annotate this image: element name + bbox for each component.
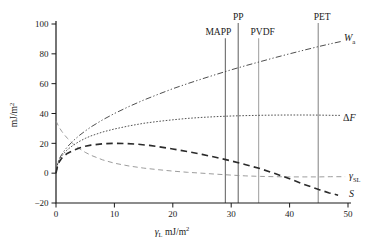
marker-label-pp: PP: [233, 12, 244, 22]
y-tick-label: 40: [40, 109, 50, 119]
x-tick-label: 20: [168, 209, 178, 219]
x-axis-label: γL mJ/m2: [155, 225, 190, 238]
curve-label-wa: Wa: [344, 32, 356, 46]
curve-s: [56, 143, 338, 195]
y-axis-label: mJ/m2: [8, 103, 20, 127]
axes: [56, 21, 351, 203]
y-tick-label: 0: [44, 168, 49, 178]
x-tick-label: 30: [227, 209, 237, 219]
marker-label-pvdf: PVDF: [250, 27, 274, 37]
x-tick-label: 50: [344, 209, 354, 219]
curve-wa: [56, 42, 341, 174]
y-tick-label: 20: [40, 139, 50, 149]
x-tick-label: 0: [54, 209, 59, 219]
surface-energy-figure: MAPPPPPVDFPET100806040200−2001020304050m…: [0, 0, 376, 252]
x-tick-label: 40: [285, 209, 295, 219]
y-tick-label: 80: [40, 49, 50, 59]
y-tick-label: −20: [34, 198, 49, 208]
curve-label-delta-f: ΔF: [343, 112, 356, 123]
x-tick-label: 10: [110, 209, 120, 219]
marker-label-pet: PET: [314, 12, 331, 22]
marker-label-mapp: MAPP: [205, 27, 231, 37]
y-tick-label: 60: [40, 79, 50, 89]
y-tick-label: 100: [35, 19, 49, 29]
surface-energy-chart: MAPPPPPVDFPET100806040200−2001020304050m…: [0, 0, 376, 252]
curve-gamma-sl: [56, 121, 345, 177]
curve-label-s: S: [349, 188, 354, 199]
curve-label-gamma-sl: γSL: [349, 170, 361, 183]
